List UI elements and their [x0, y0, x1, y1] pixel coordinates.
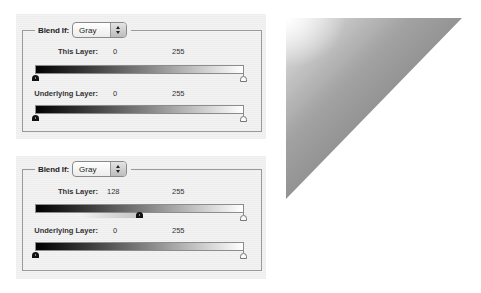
- this-layer-black-value: 0: [113, 47, 117, 56]
- underlying-layer-white-slider[interactable]: [240, 116, 247, 122]
- underlying-layer-gradient-bar: [35, 242, 244, 251]
- this-layer-white-slider[interactable]: [240, 76, 247, 82]
- channel-select-value: Gray: [79, 165, 96, 174]
- underlying-layer-gradient-bar: [35, 105, 244, 114]
- blend-if-group: Blend If: Gray This Layer: 128 255 Under…: [22, 169, 262, 271]
- this-layer-gradient-bar: [35, 65, 244, 74]
- underlying-layer-label: Underlying Layer:: [8, 226, 98, 235]
- underlying-layer-black-slider[interactable]: [32, 115, 39, 121]
- this-layer-black-value: 128: [107, 187, 120, 196]
- this-layer-label: This Layer:: [18, 187, 98, 196]
- underlying-layer-white-value: 255: [172, 89, 185, 98]
- underlying-layer-white-guide: [243, 242, 244, 253]
- blend-if-header: Blend If: Gray: [35, 159, 131, 179]
- underlying-layer-white-guide: [243, 105, 244, 116]
- underlying-layer-black-value: 0: [113, 226, 117, 235]
- this-layer-black-slider[interactable]: [32, 75, 39, 81]
- blend-if-panel-adjusted: Blend If: Gray This Layer: 128 255 Under…: [16, 156, 266, 279]
- underlying-layer-black-value: 0: [113, 89, 117, 98]
- blend-if-label: Blend If:: [38, 165, 69, 174]
- underlying-layer-label: Underlying Layer:: [8, 89, 98, 98]
- underlying-layer-white-value: 255: [172, 226, 185, 235]
- slider-track-shadow: [83, 213, 139, 218]
- blend-if-header: Blend If: Gray: [35, 20, 131, 40]
- underlying-layer-black-slider[interactable]: [32, 252, 39, 258]
- up-down-arrows-icon[interactable]: [110, 162, 126, 176]
- this-layer-white-guide: [243, 204, 244, 215]
- underlying-layer-white-slider[interactable]: [240, 253, 247, 259]
- this-layer-black-slider[interactable]: [136, 212, 143, 218]
- channel-select[interactable]: Gray: [72, 22, 127, 38]
- channel-select-value: Gray: [79, 26, 96, 35]
- this-layer-white-slider[interactable]: [240, 215, 247, 221]
- this-layer-white-guide: [243, 65, 244, 76]
- up-down-arrows-icon[interactable]: [110, 23, 126, 37]
- blend-if-group: Blend If: Gray This Layer: 0 255 Underly…: [22, 30, 262, 132]
- this-layer-white-value: 255: [172, 47, 185, 56]
- channel-select[interactable]: Gray: [72, 161, 127, 177]
- gradient-triangle-preview: [286, 18, 462, 199]
- this-layer-white-value: 255: [172, 187, 185, 196]
- this-layer-label: This Layer:: [18, 47, 98, 56]
- blend-if-panel-default: Blend If: Gray This Layer: 0 255 Underly…: [16, 14, 266, 139]
- blend-if-label: Blend If:: [38, 26, 69, 35]
